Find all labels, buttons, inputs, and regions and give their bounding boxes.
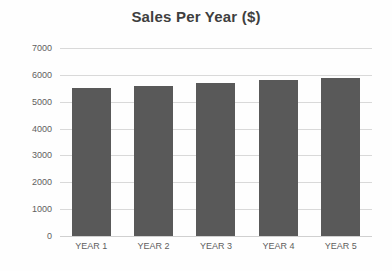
y-axis-tick-label: 6000: [0, 70, 52, 80]
y-axis-tick-label: 0: [0, 231, 52, 241]
bar-slot: [122, 48, 184, 236]
bar[interactable]: [321, 78, 360, 236]
bar[interactable]: [134, 86, 173, 236]
y-axis-tick-label: 5000: [0, 97, 52, 107]
bar-slot: [60, 48, 122, 236]
x-axis-tick-label: YEAR 5: [310, 241, 372, 252]
y-axis-tick-label: 3000: [0, 150, 52, 160]
x-axis-tick-label: YEAR 1: [60, 241, 122, 252]
bar-slot: [185, 48, 247, 236]
chart-title: Sales Per Year ($): [0, 8, 392, 25]
bar-chart: Sales Per Year ($) 700060005000400030002…: [0, 0, 392, 271]
x-axis-tick-label: YEAR 2: [122, 241, 184, 252]
x-axis-tick-label: YEAR 4: [247, 241, 309, 252]
y-axis-tick-label: 2000: [0, 177, 52, 187]
bar[interactable]: [259, 80, 298, 236]
bar[interactable]: [196, 83, 235, 236]
plot-area: [60, 48, 372, 236]
y-axis-tick-label: 7000: [0, 43, 52, 53]
x-axis-tick-label: YEAR 3: [185, 241, 247, 252]
gridline: [60, 236, 372, 237]
bar[interactable]: [72, 88, 111, 236]
bar-slot: [247, 48, 309, 236]
y-axis-tick-label: 4000: [0, 124, 52, 134]
y-axis-tick-label: 1000: [0, 204, 52, 214]
bar-slot: [310, 48, 372, 236]
